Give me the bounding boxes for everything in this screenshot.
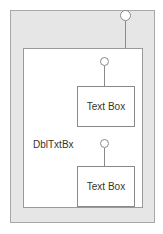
outer-connector-circle: [120, 10, 131, 21]
text-box-1-connector-circle: [100, 57, 109, 66]
outer-connector-line: [125, 21, 126, 48]
container-label: DblTxtBx: [33, 139, 74, 150]
text-box-2-connector-circle: [100, 139, 109, 148]
text-box-1: Text Box: [77, 86, 135, 127]
text-box-2-connector-line: [104, 148, 105, 166]
text-box-2-label: Text Box: [87, 181, 125, 192]
text-box-1-label: Text Box: [87, 101, 125, 112]
text-box-1-connector-line: [104, 66, 105, 86]
text-box-2: Text Box: [77, 166, 135, 207]
